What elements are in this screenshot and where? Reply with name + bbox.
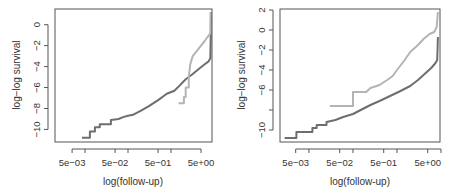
right-y-tick-label: −6 [256,85,267,96]
left-x-tick-label: 5e−03 [59,157,86,168]
left-y-tick-label: 0 [31,22,42,27]
right-x-tick-label: 5e+00 [414,157,441,168]
right-y-axis-label: log−log survival [236,40,247,109]
left-y-axis: 0−2−4−6−8−10 [31,22,48,137]
right-y-tick-label: −4 [256,65,267,76]
right-x-axis-label: log(follow-up) [330,176,390,187]
right-x-axis: 5e−035e−025e−015e+00 [282,149,441,168]
left-y-tick-label: −6 [31,82,42,93]
left-y-tick-label: −4 [31,61,42,72]
left-panel: 5e−035e−025e−015e+00 0−2−4−6−8−10 log(fo… [11,9,214,187]
left-y-tick-label: −2 [31,40,42,51]
right-x-tick-label: 5e−02 [326,157,353,168]
right-y-axis: 20−2−4−6−10 [256,7,273,138]
left-series-1-line [179,12,211,103]
right-panel: 5e−035e−025e−015e+00 20−2−4−6−10 log(fol… [236,7,441,187]
left-x-tick-label: 5e−01 [145,157,172,168]
left-x-tick-label: 5e+00 [188,157,215,168]
right-x-tick-label: 5e−01 [370,157,397,168]
right-y-tick-label: −2 [256,45,267,56]
right-series-0-line [285,37,438,138]
right-plot-box [280,9,440,142]
right-y-tick-label: 2 [256,7,267,12]
left-x-axis: 5e−035e−025e−015e+00 [59,149,215,168]
left-x-axis-label: log(follow-up) [103,176,163,187]
right-x-tick-label: 5e−03 [282,157,309,168]
right-y-tick-label: 0 [256,27,267,32]
right-series-1-line [330,12,438,106]
right-series-layer [285,12,438,138]
figure-canvas: 5e−035e−025e−015e+00 0−2−4−6−8−10 log(fo… [0,0,454,195]
left-y-axis-label: log−log survival [11,40,22,109]
left-y-tick-label: −8 [31,103,42,114]
left-series-layer [82,12,211,138]
left-series-0-line [82,12,211,138]
left-y-tick-label: −10 [31,121,42,137]
right-y-tick-label: −10 [256,122,267,138]
figure: 5e−035e−025e−015e+00 0−2−4−6−8−10 log(fo… [0,0,454,195]
left-x-tick-label: 5e−02 [102,157,129,168]
